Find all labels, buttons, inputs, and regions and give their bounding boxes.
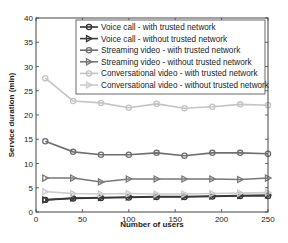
data-series (43, 139, 271, 159)
x-tick-label: 200 (215, 215, 229, 224)
y-tick-label: 10 (24, 160, 33, 169)
x-axis-label: Number of users (120, 220, 184, 229)
legend-label: Conversational video - with trusted netw… (101, 69, 258, 78)
series-layer (43, 76, 271, 203)
legend-item: Streaming video - with trusted network (80, 46, 241, 55)
legend-label: Conversational video - without trusted n… (101, 81, 270, 90)
y-tick-label: 20 (24, 111, 33, 120)
legend-item: Streaming video - without trusted networ… (80, 58, 253, 67)
legend-label: Streaming video - with trusted network (101, 46, 241, 55)
y-tick-label: 35 (24, 38, 33, 47)
x-tick-label: 250 (261, 215, 275, 224)
y-tick-label: 0 (29, 208, 34, 217)
y-tick-label: 40 (24, 14, 33, 23)
legend-label: Streaming video - without trusted networ… (101, 58, 253, 67)
legend-item: Voice call - with trusted network (80, 23, 217, 32)
line-chart: 0501001502002500510152025303540 Number o… (0, 0, 288, 243)
legend-label: Voice call - with trusted network (101, 23, 217, 32)
legend-item: Conversational video - without trusted n… (80, 81, 270, 90)
legend-item: Conversational video - with trusted netw… (80, 69, 258, 78)
y-tick-label: 25 (24, 87, 33, 96)
y-tick-label: 30 (24, 63, 33, 72)
data-series (43, 175, 271, 185)
legend: Voice call - with trusted networkVoice c… (76, 20, 270, 94)
legend-item: Voice call - without trusted network (80, 35, 228, 44)
x-tick-label: 50 (78, 215, 87, 224)
y-tick-label: 5 (29, 184, 34, 193)
y-axis-label: Service duration (min) (7, 72, 16, 157)
series-line (45, 141, 268, 156)
x-tick-label: 0 (34, 215, 39, 224)
legend-label: Voice call - without trusted network (101, 35, 228, 44)
y-tick-label: 15 (24, 135, 33, 144)
